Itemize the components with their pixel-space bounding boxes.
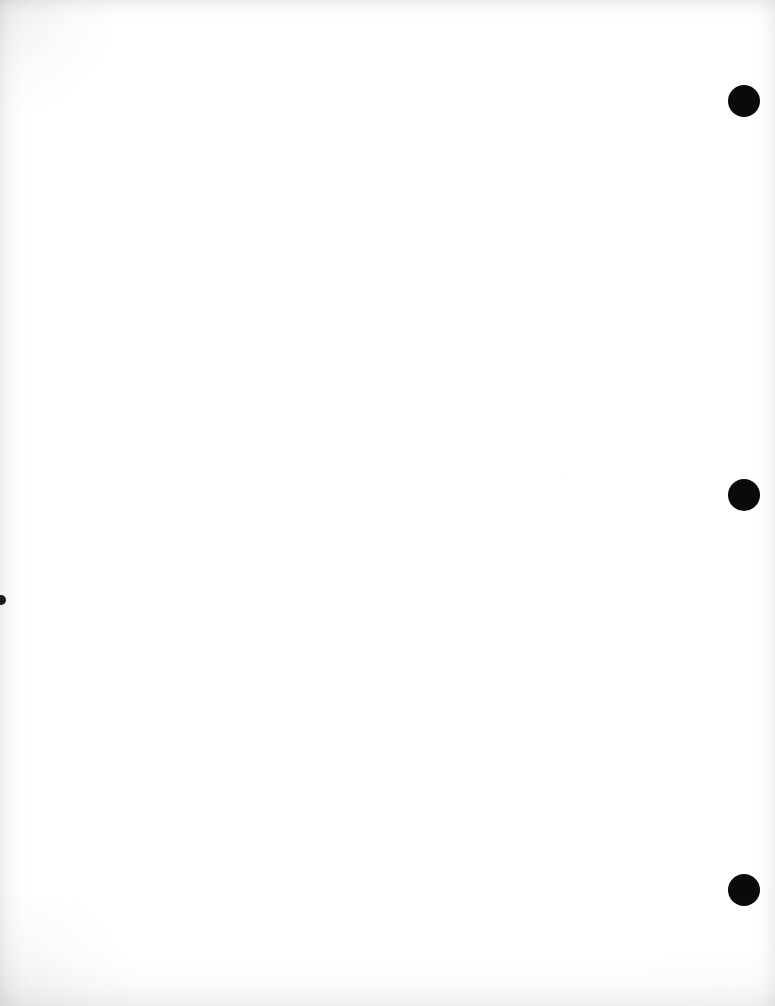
scanned-page <box>0 0 775 1006</box>
page-content-area <box>40 40 715 946</box>
punch-hole-middle <box>728 479 760 511</box>
punch-hole-bottom <box>728 874 760 906</box>
punch-hole-top <box>728 85 760 117</box>
